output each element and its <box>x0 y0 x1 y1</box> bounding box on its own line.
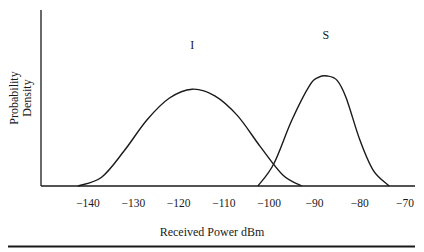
curve-i <box>78 89 302 186</box>
x-tick-label: −100 <box>257 197 281 209</box>
probability-density-chart: Probability Density −140−130−120−110−100… <box>0 0 424 252</box>
x-axis-title: Received Power dBm <box>160 225 265 239</box>
x-tick-label: −90 <box>306 197 324 209</box>
x-tick-label: −70 <box>396 197 414 209</box>
curve-labels: IS <box>190 28 329 52</box>
x-tick-label: −130 <box>121 197 145 209</box>
y-axis-title-line2: Density <box>20 79 34 116</box>
curves <box>78 76 389 186</box>
x-tick-label: −120 <box>167 197 191 209</box>
x-tick-labels: −140−130−120−110−100−90−80−70 <box>76 197 414 209</box>
x-tick-label: −140 <box>76 197 100 209</box>
x-tick-label: −80 <box>351 197 369 209</box>
y-axis-title: Probability Density <box>7 71 34 124</box>
curve-label-i: I <box>190 38 194 52</box>
curve-label-s: S <box>322 28 329 42</box>
x-tick-label: −110 <box>212 197 236 209</box>
y-axis-title-line1: Probability <box>7 71 21 124</box>
